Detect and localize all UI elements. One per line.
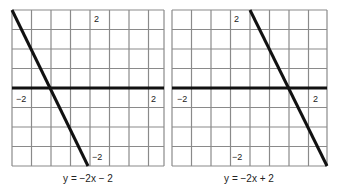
graph-right: 2 −2 2 −2 y = −2x + 2	[169, 0, 339, 194]
x-tick-neg: −2	[16, 94, 26, 104]
y-tick-neg: −2	[232, 152, 242, 162]
graph-left-caption: y = −2x − 2	[28, 173, 148, 184]
y-tick-pos: 2	[234, 14, 239, 24]
graph-right-caption: y = −2x + 2	[189, 173, 309, 184]
x-tick-neg: −2	[177, 94, 187, 104]
y-tick-neg: −2	[92, 152, 102, 162]
x-tick-pos: 2	[313, 94, 318, 104]
graph-left: 2 −2 2 −2 y = −2x − 2	[0, 0, 170, 194]
y-tick-pos: 2	[94, 14, 99, 24]
x-tick-pos: 2	[151, 94, 156, 104]
